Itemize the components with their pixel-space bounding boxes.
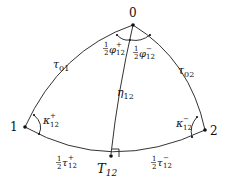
node-T12-label: T12 [97,161,117,178]
svg-text:−: − [146,45,152,53]
node-1-label: 1 [10,120,18,134]
arc-tick [149,34,151,36]
node-2-label: 2 [210,124,218,138]
svg-text:φ: φ [109,44,116,55]
half-tau-plus-label: 1 2 τ + 12 [56,154,77,171]
svg-text:12: 12 [183,124,192,132]
node-0-point [131,23,135,27]
half-tau-minus-label: 1 2 τ − 12 [151,154,172,171]
edge-1-2-base [25,127,205,152]
svg-text:−: − [163,154,169,162]
svg-text:φ: φ [139,48,146,59]
angle-arc-kappa-plus [34,115,41,134]
svg-text:−: − [183,115,189,123]
svg-text:+: + [68,154,74,162]
svg-text:2: 2 [57,163,61,171]
arc-tick [196,116,198,118]
half-phi-plus-label: 1 2 φ + 12 [103,41,125,57]
node-1-point [23,125,27,129]
svg-text:12: 12 [68,162,77,170]
kappa-minus-label: κ − 12 [175,115,192,132]
arc-tick [129,39,131,41]
svg-text:1: 1 [134,45,138,53]
half-phi-minus-label: 1 2 φ − 12 [133,45,155,61]
arc-tick [191,136,193,138]
svg-text:+: + [116,41,122,49]
svg-text:1: 1 [104,41,108,49]
svg-text:12: 12 [163,162,172,170]
tau01-label: τ01 [53,58,69,73]
node-2-point [203,128,207,132]
tau02-label: τ02 [178,64,194,79]
svg-text:1: 1 [152,155,156,163]
svg-text:12: 12 [146,53,155,61]
svg-text:2: 2 [134,53,138,61]
eta12-label: η12 [117,86,134,101]
svg-text:12: 12 [50,121,59,129]
kappa-plus-label: κ + 12 [42,112,59,129]
spherical-triangle-diagram: 0 1 2 T12 τ01 τ02 η12 1 2 φ + 12 1 2 φ −… [0,0,229,185]
svg-text:1: 1 [57,155,61,163]
angle-arc-phi-plus [117,35,129,40]
arc-tick [33,114,35,116]
svg-text:12: 12 [116,49,125,57]
node-0-label: 0 [129,6,137,20]
node-T12-point [109,154,113,158]
svg-text:2: 2 [104,49,108,57]
svg-text:+: + [50,112,56,120]
arc-tick [38,133,40,135]
angle-arc-phi-minus [131,35,150,40]
arc-tick [116,34,118,36]
right-angle-marker [112,149,119,157]
svg-text:2: 2 [152,163,156,171]
